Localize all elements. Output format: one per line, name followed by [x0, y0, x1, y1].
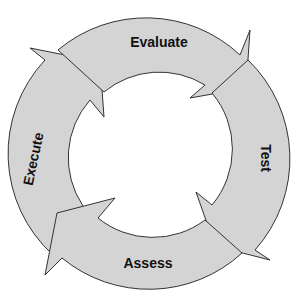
test-label: Test	[258, 144, 274, 172]
assess-label: Assess	[123, 255, 172, 271]
cycle-diagram: Evaluate Test Assess Execute	[0, 0, 302, 301]
cycle-diagram-svg: Evaluate Test Assess Execute	[0, 0, 302, 301]
evaluate-label: Evaluate	[130, 34, 188, 50]
